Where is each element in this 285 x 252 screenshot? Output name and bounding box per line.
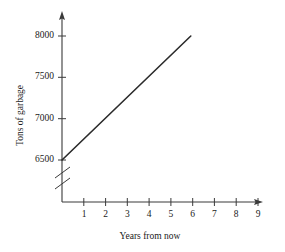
x-tick-label-9: 9 [250, 210, 266, 220]
x-tick-label-3: 3 [119, 210, 135, 220]
y-tick-label-6500: 6500 [20, 155, 54, 165]
x-axis-title: Years from now [95, 232, 205, 242]
data-series-line [62, 36, 191, 160]
x-tick-label-4: 4 [141, 210, 157, 220]
x-tick-label-8: 8 [228, 210, 244, 220]
x-tick-label-5: 5 [163, 210, 179, 220]
y-axis-title: Tons of garbage [16, 85, 26, 146]
x-tick-label-2: 2 [98, 210, 114, 220]
x-tick-label-6: 6 [185, 210, 201, 220]
x-tick-label-7: 7 [206, 210, 222, 220]
y-tick-label-8000: 8000 [20, 31, 54, 41]
x-tick-label-1: 1 [76, 210, 92, 220]
garbage-tons-line-chart: 8000 7500 7000 6500 1 2 3 4 5 6 7 8 9 To… [0, 0, 285, 252]
y-tick-label-7500: 7500 [20, 72, 54, 82]
